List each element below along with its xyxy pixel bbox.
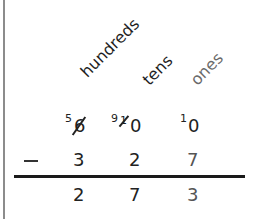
regroup-tens: 9 <box>111 113 118 124</box>
header-tens: tens <box>139 51 177 89</box>
subtrahend-hundreds: 3 <box>73 151 84 169</box>
minuend-tens: 0 <box>130 117 141 135</box>
header-hundreds: hundreds <box>77 14 144 81</box>
difference-ones: 3 <box>187 186 198 204</box>
subtrahend-ones: 7 <box>187 151 198 169</box>
regroup-hundreds: 5 <box>65 113 72 124</box>
difference-tens: 7 <box>129 186 140 204</box>
left-border <box>3 0 5 219</box>
minus-sign <box>24 160 38 162</box>
header-ones: ones <box>187 49 227 89</box>
minuend-ones: 0 <box>188 117 199 135</box>
subtrahend-tens: 2 <box>129 151 140 169</box>
difference-hundreds: 2 <box>73 186 84 204</box>
regroup-ones: 1 <box>180 113 187 124</box>
sum-line <box>14 175 245 178</box>
